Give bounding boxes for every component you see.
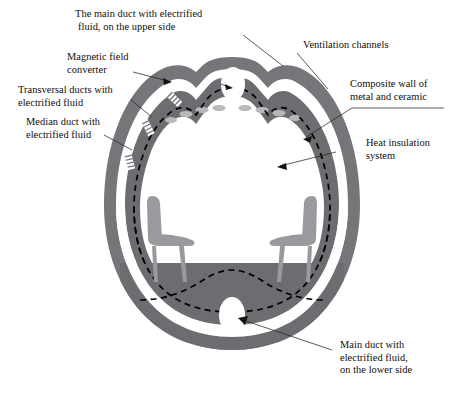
- label-heat-insulation: Heat insulation system: [366, 137, 433, 161]
- label-transversal-ducts: Transversal ducts with electrified fluid: [18, 84, 115, 108]
- label-magnetic-field-converter: Magnetic field converter: [67, 51, 131, 75]
- label-main-duct-lower: Main duct with electrified fluid, on the…: [340, 339, 412, 375]
- vessel-hull: [104, 57, 360, 352]
- cutaway-illustration: The main duct with electrified fluid, on…: [0, 0, 465, 396]
- main-duct-lower-opening: [219, 297, 245, 333]
- label-median-duct: Median duct with electrified fluid: [26, 116, 103, 140]
- label-main-duct-upper: The main duct with electrified fluid, on…: [75, 8, 205, 32]
- label-ventilation-channels: Ventilation channels: [303, 39, 389, 50]
- diagram-canvas: The main duct with electrified fluid, on…: [0, 0, 465, 396]
- label-composite-wall: Composite wall of metal and ceramic: [350, 78, 430, 102]
